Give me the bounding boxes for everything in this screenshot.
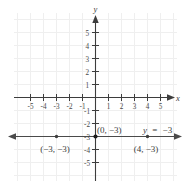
x-tick-label: 2 bbox=[120, 103, 124, 111]
y-tick-label: 5 bbox=[85, 30, 89, 38]
point-label-right: (4, −3) bbox=[134, 144, 159, 154]
y-tick-label: 2 bbox=[85, 69, 89, 77]
x-tick-label: -5 bbox=[28, 103, 34, 111]
point-marker bbox=[93, 134, 97, 138]
x-tick-label: 1 bbox=[107, 103, 111, 111]
y-tick-label: -4 bbox=[84, 147, 90, 155]
graph-svg: x y -5 -4 -3 -2 -1 1 2 3 4 5 1 2 3 4 5 -… bbox=[0, 0, 190, 191]
x-tick-label: 3 bbox=[133, 103, 137, 111]
y-tick-label: 4 bbox=[85, 43, 89, 51]
x-axis bbox=[14, 94, 175, 101]
equation-label: y = −3 bbox=[142, 125, 173, 135]
y-tick-label: -2 bbox=[84, 121, 90, 129]
y-tick-labels-negative: -1 -2 -3 -4 -5 bbox=[84, 108, 90, 168]
y-tick-label: -1 bbox=[84, 108, 90, 116]
y-tick-labels-positive: 1 2 3 4 5 bbox=[85, 30, 89, 90]
y-tick-label: -3 bbox=[84, 134, 90, 142]
equation-lhs: y bbox=[142, 125, 147, 135]
point-marker bbox=[146, 135, 149, 138]
x-tick-label: 5 bbox=[159, 103, 163, 111]
y-tick-label: 3 bbox=[85, 56, 89, 64]
x-tick-label: -2 bbox=[67, 103, 73, 111]
y-tick-label: 1 bbox=[85, 82, 89, 90]
svg-text:y = −3: y = −3 bbox=[142, 125, 173, 135]
y-tick-label: -5 bbox=[84, 160, 90, 168]
x-tick-label: -3 bbox=[54, 103, 60, 111]
x-tick-label: 4 bbox=[146, 103, 150, 111]
coordinate-plane-figure: x y -5 -4 -3 -2 -1 1 2 3 4 5 1 2 3 4 5 -… bbox=[0, 0, 190, 191]
x-axis-label: x bbox=[175, 93, 180, 103]
point-label-origin: (0, −3) bbox=[97, 125, 122, 135]
y-axis-label: y bbox=[93, 4, 98, 14]
equation-operator: = bbox=[152, 125, 157, 135]
point-label-left: (−3, −3) bbox=[40, 144, 70, 154]
x-tick-label: -4 bbox=[41, 103, 47, 111]
x-tick-labels-positive: 1 2 3 4 5 bbox=[107, 103, 163, 111]
equation-rhs: −3 bbox=[163, 125, 173, 135]
point-marker bbox=[55, 135, 58, 138]
x-tick-labels-negative: -5 -4 -3 -2 -1 bbox=[28, 103, 86, 111]
